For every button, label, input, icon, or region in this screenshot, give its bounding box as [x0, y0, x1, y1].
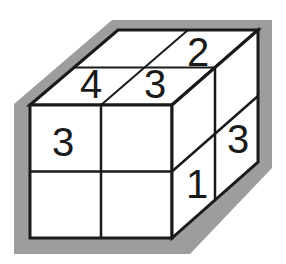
figure-canvas: 2 4 3 3 3 1 — [0, 0, 286, 264]
cell-front-top-right[interactable] — [101, 105, 172, 172]
digit-top-4: 4 — [80, 62, 102, 106]
digit-right-3: 3 — [227, 117, 249, 161]
isometric-cube-diagram: 2 4 3 3 3 1 — [0, 0, 286, 264]
cell-front-bottom-right[interactable] — [101, 172, 172, 239]
cell-front-bottom-left[interactable] — [30, 172, 101, 239]
digit-top-2: 2 — [187, 30, 209, 74]
digit-top-3: 3 — [144, 62, 166, 106]
digit-right-1: 1 — [186, 162, 208, 206]
digit-front-3: 3 — [52, 120, 74, 164]
